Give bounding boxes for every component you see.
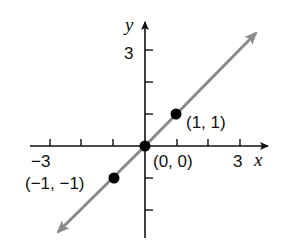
point-origin <box>140 141 151 152</box>
x-max-tick-label: 3 <box>233 152 242 171</box>
point-1-1 <box>171 109 182 120</box>
point-label-neg: (−1, −1) <box>25 174 85 193</box>
point-neg1-neg1 <box>109 173 120 184</box>
point-label-origin: (0, 0) <box>153 152 193 171</box>
x-min-tick-label: −3 <box>31 152 50 171</box>
y-max-tick-label: 3 <box>124 44 133 63</box>
y-axis-label: y <box>123 14 134 35</box>
x-axis-label: x <box>253 149 263 170</box>
coordinate-plane: y 3 x −3 3 (−1, −1) (0, 0) (1, 1) <box>0 0 282 243</box>
y-axis-ticks <box>145 50 153 210</box>
point-label-pos: (1, 1) <box>186 113 226 132</box>
